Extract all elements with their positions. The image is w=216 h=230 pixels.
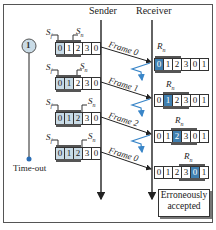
seq-cell: 1	[199, 94, 209, 107]
seq-cell: 1	[199, 58, 209, 71]
seq-cell: 0	[91, 147, 101, 160]
seq-cell: 1	[199, 130, 209, 143]
go-back-n-diagram: Sender Receiver 1 Time-out Frame 0 Frame…	[0, 0, 216, 230]
erroneously-accepted-note: Erroneously accepted	[158, 189, 210, 217]
